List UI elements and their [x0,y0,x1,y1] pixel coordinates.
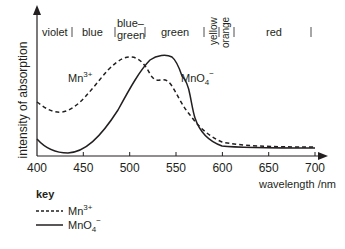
x-axis [37,152,328,160]
y-axis-label: intensity of absorption [16,42,30,159]
x-tick-550: 550 [166,161,186,175]
band-violet: violet [42,26,68,38]
y-axis-arrow-icon [33,5,41,15]
series-mn3-dashed-line [37,57,315,147]
x-axis-label: wavelength /nm [258,178,336,190]
legend-entry-mn3: Mn3+ [68,203,93,217]
band-red: red [266,26,282,38]
annotation-mno4: MnO4− [181,69,214,87]
series-mno4-solid-line [37,55,315,153]
color-bands: violet blue blue– green green yellow ora… [42,16,311,48]
x-tick-600: 600 [212,161,232,175]
band-yellow: yellow [208,16,219,45]
x-tick-400: 400 [27,161,47,175]
y-axis [33,5,41,156]
legend: key Mn3+ MnO4− [36,188,101,234]
x-tick-450: 450 [73,161,93,175]
band-blue-green-line2: green [117,29,145,41]
annotation-mn3: Mn3+ [68,70,93,84]
absorption-chart: intensity of absorption 400 450 500 550 … [0,0,345,249]
band-blue-green-line1: blue– [117,17,145,29]
legend-entry-mno4: MnO4− [68,216,101,234]
x-tick-650: 650 [259,161,279,175]
legend-title: key [36,188,55,200]
band-orange: orange [220,16,231,48]
x-tick-labels: 400 450 500 550 600 650 700 [27,161,325,175]
x-tick-700: 700 [305,161,325,175]
x-tick-500: 500 [120,161,140,175]
band-blue: blue [82,26,103,38]
band-green: green [161,26,189,38]
x-axis-arrow-icon [318,152,328,160]
